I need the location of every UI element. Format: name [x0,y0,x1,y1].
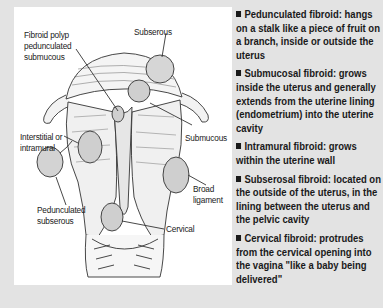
list-item-pedunculated: Pedunculated fibroid: hangs on a stalk l… [236,8,383,62]
label-line: pedunculated [24,40,71,51]
list-item-intramural: Intramural fibroid: grows within the ute… [236,140,383,167]
label-fibroid-polyp: Fibroid polyp pedunculated submucous [24,29,71,62]
item-text: Subserosal fibroid: located on the outsi… [236,173,381,226]
label-line: Broad [193,183,223,194]
list-item-submucosal: Submucosal fibroid: grows inside the ute… [236,67,383,135]
label-subserous: Subserous [134,26,172,37]
item-text: Pedunculated fibroid: hangs on a stalk l… [236,8,380,61]
square-bullet-icon [236,235,241,241]
square-bullet-icon [236,70,241,76]
label-line: Pedunculated [37,204,85,215]
label-submucous: Submucous [185,132,227,143]
item-text: Intramural fibroid: grows within the ute… [236,140,357,166]
square-bullet-icon [236,11,241,17]
label-line: subserous [37,215,85,226]
label-line: Fibroid polyp [24,29,71,40]
label-broad-ligament: Broad ligament [193,183,223,205]
label-cervical: Cervical [166,223,194,234]
list-item-cervical: Cervical fibroid: protrudes from the cer… [236,232,383,286]
item-text: Cervical fibroid: protrudes from the cer… [236,232,372,285]
label-interstitial: Interstitial or intramural [20,131,62,153]
label-line: intramural [20,142,62,153]
label-line: Interstitial or [20,131,62,142]
label-pedunculated-subserous: Pedunculated subserous [37,204,85,226]
square-bullet-icon [236,176,241,182]
illustration-panel: Fibroid polyp pedunculated submucous Sub… [14,7,232,285]
list-item-subserosal: Subserosal fibroid: located on the outsi… [236,173,383,227]
item-text: Submucosal fibroid: grows inside the ute… [236,67,376,133]
label-line: submucous [24,51,71,62]
square-bullet-icon [236,143,241,149]
label-line: ligament [193,194,223,205]
fibroid-types-list: Pedunculated fibroid: hangs on a stalk l… [236,8,382,291]
